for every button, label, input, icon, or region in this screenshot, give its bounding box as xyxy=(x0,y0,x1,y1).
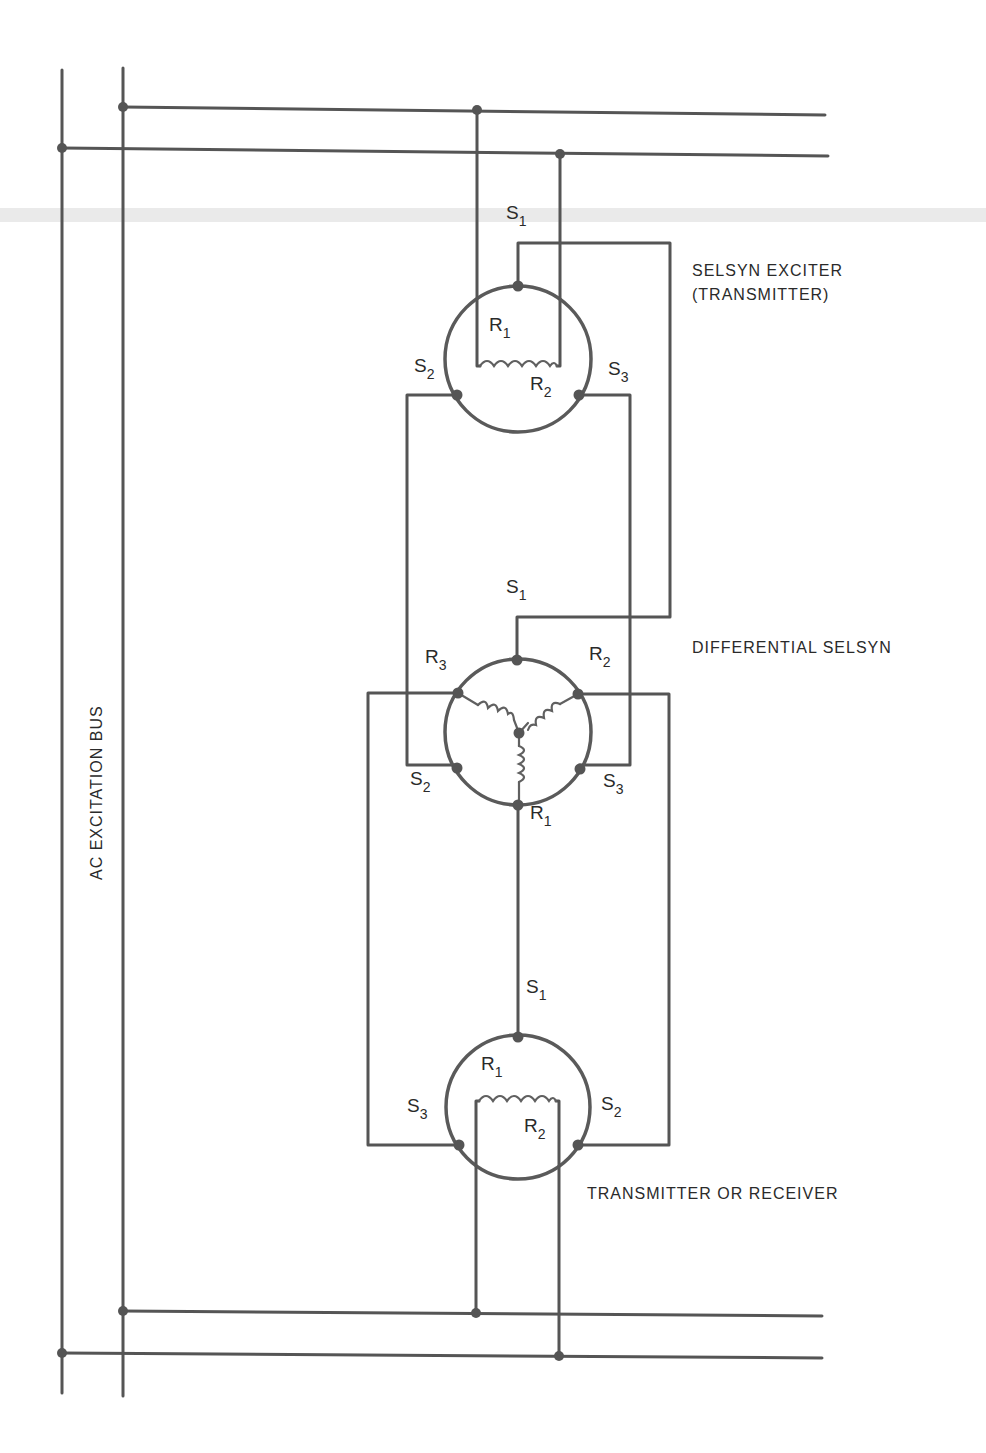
svg-text:S3: S3 xyxy=(407,1095,428,1122)
bus-label: AC EXCITATION BUS xyxy=(88,705,105,880)
rotor-coil-icon xyxy=(480,361,557,366)
exciter-s3-label: S xyxy=(608,358,621,379)
diff-r1-label: R xyxy=(530,802,544,823)
recv-r2-label: R xyxy=(524,1115,538,1136)
svg-text:S3: S3 xyxy=(608,358,629,385)
recv-s2-label: S xyxy=(601,1093,614,1114)
svg-text:R3: R3 xyxy=(425,646,447,673)
rotor-coil-icon xyxy=(479,1096,556,1101)
exciter-r1-label: R xyxy=(489,314,503,335)
svg-text:R1: R1 xyxy=(530,802,552,829)
diff-s2-label: S xyxy=(410,768,423,789)
svg-text:R2: R2 xyxy=(524,1115,546,1142)
svg-text:R2: R2 xyxy=(589,643,611,670)
selsyn-wiring-diagram: AC EXCITATION BUS S1 R1 R2 S2 S3 SELSYN … xyxy=(0,0,986,1453)
winding-r2-icon xyxy=(528,703,560,730)
transmitter-or-receiver xyxy=(446,1032,590,1357)
receiver-caption: TRANSMITTER OR RECEIVER xyxy=(587,1185,838,1202)
diff-r3-label: R xyxy=(425,646,439,667)
exciter-s2-label: S xyxy=(414,355,427,376)
winding-r1-icon xyxy=(519,746,524,782)
scan-band xyxy=(0,208,986,222)
recv-s3-label: S xyxy=(407,1095,420,1116)
exciter-caption-line1: SELSYN EXCITER xyxy=(692,262,843,279)
svg-text:S2: S2 xyxy=(410,768,431,795)
exciter-r2-label: R xyxy=(530,373,544,394)
svg-text:S1: S1 xyxy=(506,576,527,603)
svg-text:S1: S1 xyxy=(506,202,527,229)
recv-r1-label: R xyxy=(481,1053,495,1074)
exciter-caption-line2: (TRANSMITTER) xyxy=(692,286,829,303)
svg-text:R1: R1 xyxy=(481,1053,503,1080)
svg-text:R1: R1 xyxy=(489,314,511,341)
differential-caption: DIFFERENTIAL SELSYN xyxy=(692,639,892,656)
svg-text:S2: S2 xyxy=(601,1093,622,1120)
diff-s1-label: S xyxy=(506,576,519,597)
diff-r2-label: R xyxy=(589,643,603,664)
diff-s3-label: S xyxy=(603,770,616,791)
exciter-s1-label: S xyxy=(506,202,519,223)
svg-text:R2: R2 xyxy=(530,373,552,400)
svg-text:S2: S2 xyxy=(414,355,435,382)
differential-selsyn xyxy=(368,655,669,1146)
svg-text:S1: S1 xyxy=(526,976,547,1003)
winding-r3-icon xyxy=(478,702,514,720)
svg-text:S3: S3 xyxy=(603,770,624,797)
recv-s1-label: S xyxy=(526,976,539,997)
